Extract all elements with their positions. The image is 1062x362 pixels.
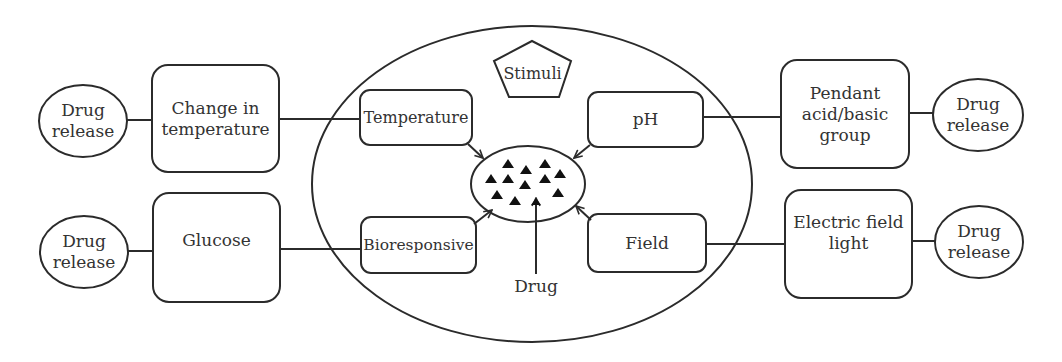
stimulus-text: Field — [625, 233, 669, 254]
stimuli-label: Stimuli — [494, 56, 571, 90]
drug-release-node-field: Drug release — [935, 206, 1023, 278]
trigger-text: Pendant acid/basic group — [802, 83, 888, 146]
drug-core-ellipse — [471, 146, 585, 222]
drug-label: Drug — [506, 274, 566, 298]
trigger-node-field: Electric field light — [785, 190, 912, 298]
drug-particles — [485, 159, 566, 205]
stimulus-text: Bioresponsive — [363, 235, 473, 256]
arrow-temperature-to-drug — [468, 144, 483, 158]
stimulus-node-field: Field — [588, 214, 706, 272]
drug-release-text: Drug release — [947, 94, 1010, 136]
trigger-text: Change in temperature — [161, 98, 269, 140]
stimulus-node-bioresponsive: Bioresponsive — [361, 217, 476, 273]
trigger-node-ph: Pendant acid/basic group — [781, 60, 909, 168]
stimulus-node-ph: pH — [588, 92, 703, 147]
drug-release-node-ph: Drug release — [933, 79, 1023, 151]
diagram-canvas — [0, 0, 1062, 362]
drug-release-node-temperature: Drug release — [39, 85, 127, 157]
stimulus-text: Temperature — [364, 107, 469, 128]
drug-release-text: Drug release — [52, 100, 115, 142]
drug-text: Drug — [514, 276, 558, 297]
stimulus-text: pH — [633, 109, 659, 130]
stimulus-node-temperature: Temperature — [360, 90, 472, 145]
trigger-node-temperature: Change in temperature — [152, 65, 279, 172]
trigger-node-glucose: Glucose — [153, 193, 280, 302]
drug-release-node-glucose: Drug release — [40, 216, 128, 288]
drug-release-text: Drug release — [53, 231, 116, 273]
drug-release-text: Drug release — [948, 221, 1011, 263]
stimuli-text: Stimuli — [503, 63, 561, 84]
trigger-text: Electric field light — [793, 212, 903, 254]
trigger-text: Glucose — [182, 230, 251, 251]
